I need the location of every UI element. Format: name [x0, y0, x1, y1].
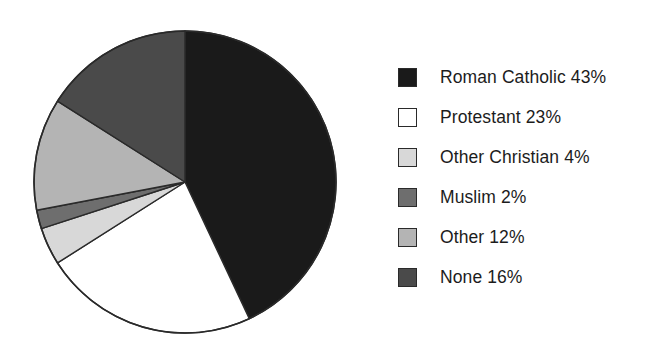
legend-item[interactable]: Muslim 2%: [398, 177, 658, 217]
legend-swatch-icon: [398, 188, 417, 207]
legend-swatch-icon: [398, 108, 417, 127]
legend-swatch-icon: [398, 228, 417, 247]
legend-swatch-icon: [398, 68, 417, 87]
legend-swatch-icon: [398, 268, 417, 287]
legend-item-label: Protestant 23%: [440, 108, 561, 127]
pie-slice-group: Roman Catholic 43%Protestant 23%Other Ch…: [34, 31, 336, 333]
legend-item[interactable]: Protestant 23%: [398, 97, 658, 137]
chart-legend: Roman Catholic 43%Protestant 23%Other Ch…: [398, 57, 658, 297]
legend-item-label: None 16%: [440, 268, 523, 287]
legend-item[interactable]: Other Christian 4%: [398, 137, 658, 177]
legend-item-label: Other 12%: [440, 228, 525, 247]
legend-item-label: Other Christian 4%: [440, 148, 590, 167]
legend-item[interactable]: Other 12%: [398, 217, 658, 257]
pie-chart-plot-area: Roman Catholic 43%Protestant 23%Other Ch…: [30, 18, 350, 348]
legend-item-label: Roman Catholic 43%: [440, 68, 606, 87]
pie-chart-figure: Roman Catholic 43%Protestant 23%Other Ch…: [0, 0, 668, 358]
legend-item-label: Muslim 2%: [440, 188, 526, 207]
legend-item[interactable]: None 16%: [398, 257, 658, 297]
legend-swatch-icon: [398, 148, 417, 167]
legend-item[interactable]: Roman Catholic 43%: [398, 57, 658, 97]
pie-chart-svg: Roman Catholic 43%Protestant 23%Other Ch…: [30, 18, 350, 348]
